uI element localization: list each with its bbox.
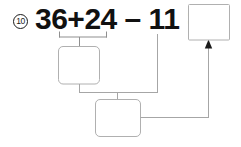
result-connector xyxy=(141,48,210,118)
second-bracket xyxy=(79,84,158,100)
worksheet-problem: 10 36+24 – 11 = xyxy=(0,0,241,147)
arrow-head-icon xyxy=(205,40,212,49)
partial-sum-box[interactable] xyxy=(59,47,100,85)
work-flow-diagram xyxy=(0,0,241,147)
first-bracket xyxy=(59,32,107,47)
final-answer-box[interactable] xyxy=(189,5,230,41)
intermediate-result-box[interactable] xyxy=(96,100,141,137)
